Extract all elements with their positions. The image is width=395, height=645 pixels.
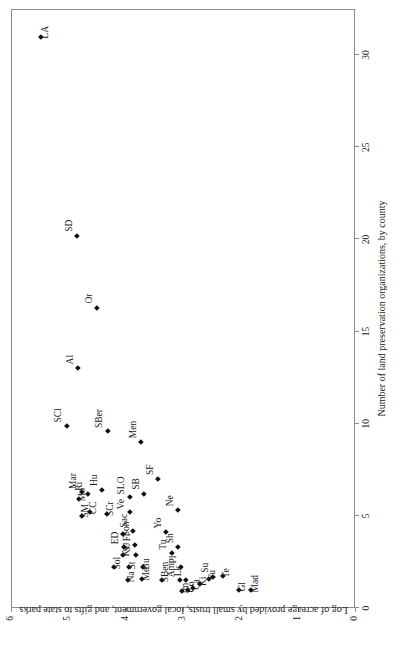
plot-panel: [11, 9, 355, 608]
data-point-label: SLO: [117, 476, 127, 494]
data-point-label: Gl: [238, 582, 248, 592]
y-axis-label: Log of acreage provided by small trusts,…: [12, 605, 356, 616]
data-point-label: SF: [145, 464, 155, 475]
data-point-label: LA: [41, 26, 51, 39]
x-tick-label: 0: [362, 594, 372, 622]
x-tick-label: 25: [362, 133, 372, 161]
data-point-label: Tu: [158, 539, 168, 549]
x-axis-label: Number of land preservation organization…: [376, 9, 387, 608]
data-point-label: Mad: [250, 575, 260, 592]
data-point-label: ED: [110, 532, 120, 545]
data-point-label: SJ: [122, 543, 132, 552]
data-point-label: Lk: [173, 566, 183, 577]
data-point-label: Fr: [122, 533, 132, 541]
data-point-label: Hu: [89, 474, 99, 486]
y-tick-label: 6: [6, 616, 16, 638]
y-tick-label: 3: [178, 616, 188, 638]
x-tick-label: 30: [362, 41, 372, 69]
data-point-label: SCl: [54, 408, 64, 422]
x-tick-label: 10: [362, 410, 372, 438]
data-point-label: St: [127, 562, 137, 570]
data-point-label: Or: [85, 294, 95, 304]
data-point-label: SD: [64, 220, 74, 232]
y-tick-label: 5: [63, 616, 73, 638]
y-tick-label: 4: [121, 616, 131, 638]
data-point-label: Ne: [166, 495, 176, 506]
data-point-label: Ve: [117, 499, 127, 509]
y-tick-label: 1: [293, 616, 303, 638]
y-tick-label: 0: [350, 616, 360, 638]
x-tick-label: 20: [362, 225, 372, 253]
x-tick-label: 15: [362, 318, 372, 346]
rotated-figure-wrapper: 051015202530 0123456 LASDOrAlSClSBerMenS…: [0, 0, 395, 645]
x-tick-label: 5: [362, 502, 372, 530]
y-tick-label: 2: [235, 616, 245, 638]
data-point-label: Yo: [153, 518, 163, 529]
data-point-label: Mo: [77, 488, 87, 501]
x-tick: [355, 423, 359, 424]
data-point-label: SCr: [105, 501, 115, 516]
chart-page: 051015202530 0123456 LASDOrAlSClSBerMenS…: [0, 0, 395, 645]
x-tick: [355, 238, 359, 239]
data-point-label: CC: [89, 501, 99, 514]
data-point-label: Su: [200, 563, 210, 573]
x-tick: [355, 331, 359, 332]
data-point-label: Al: [66, 355, 76, 365]
data-point-label: Sac: [119, 514, 129, 528]
x-tick: [355, 54, 359, 55]
x-tick: [355, 515, 359, 516]
data-point-label: Te: [222, 568, 232, 577]
data-point-label: Sol: [113, 557, 123, 570]
data-point-label: SB: [132, 478, 142, 490]
data-point-label: Me: [141, 568, 151, 581]
data-point-label: SBer: [95, 409, 105, 428]
x-tick: [355, 146, 359, 147]
data-point-label: Na: [126, 571, 136, 582]
scatter-figure: 051015202530 0123456 LASDOrAlSClSBerMenS…: [0, 0, 395, 645]
data-point-label: Men: [128, 421, 138, 438]
